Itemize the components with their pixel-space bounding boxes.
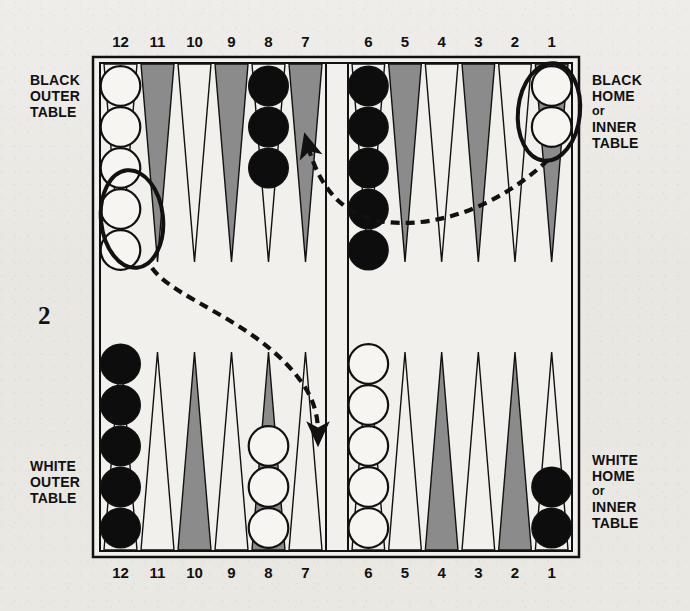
- checker-white-bottom-6[interactable]: [349, 467, 389, 507]
- backgammon-board: [0, 0, 690, 611]
- checker-white-top-12[interactable]: [101, 66, 141, 106]
- checker-black-bottom-1[interactable]: [532, 508, 572, 548]
- checker-black-top-6[interactable]: [349, 66, 389, 106]
- checker-black-top-8[interactable]: [249, 107, 289, 147]
- checker-white-bottom-8[interactable]: [249, 426, 289, 466]
- checker-black-bottom-12[interactable]: [101, 344, 141, 384]
- checker-black-bottom-12[interactable]: [101, 467, 141, 507]
- checker-white-top-1[interactable]: [532, 66, 572, 106]
- checker-white-top-12[interactable]: [101, 148, 141, 188]
- checker-black-top-8[interactable]: [249, 66, 289, 106]
- checker-black-bottom-12[interactable]: [101, 508, 141, 548]
- checker-white-top-12[interactable]: [101, 107, 141, 147]
- checker-black-top-6[interactable]: [349, 148, 389, 188]
- checker-black-bottom-1[interactable]: [532, 467, 572, 507]
- checker-black-top-8[interactable]: [249, 148, 289, 188]
- checker-white-bottom-6[interactable]: [349, 426, 389, 466]
- checker-white-top-1[interactable]: [532, 107, 572, 147]
- checker-black-top-6[interactable]: [349, 107, 389, 147]
- checker-white-top-12[interactable]: [101, 189, 141, 229]
- checker-black-bottom-12[interactable]: [101, 385, 141, 425]
- checker-white-bottom-8[interactable]: [249, 508, 289, 548]
- checker-black-bottom-12[interactable]: [101, 426, 141, 466]
- checker-black-top-6[interactable]: [349, 230, 389, 270]
- board-bar: [326, 63, 348, 551]
- checker-white-bottom-6[interactable]: [349, 344, 389, 384]
- checker-white-bottom-6[interactable]: [349, 508, 389, 548]
- checker-white-bottom-8[interactable]: [249, 467, 289, 507]
- checker-white-bottom-6[interactable]: [349, 385, 389, 425]
